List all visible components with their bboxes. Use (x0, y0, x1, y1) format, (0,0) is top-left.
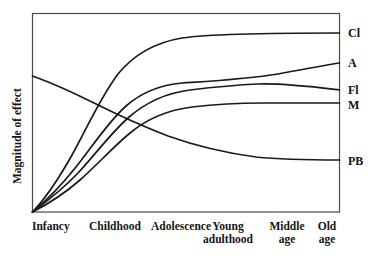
series-label-a: A (348, 56, 357, 70)
x-tick-middle: Middle (269, 220, 304, 232)
x-tick-infancy: Infancy (32, 220, 70, 233)
y-axis-title: Magnitude of effect (11, 88, 24, 184)
x-tick-childhood: Childhood (89, 220, 141, 232)
developmental-effects-line-chart: Cl A Fl M PB Magnitude of effect Infancy… (0, 0, 380, 257)
x-tick-old-age: age (319, 233, 336, 246)
series-label-pb: PB (348, 154, 363, 168)
x-tick-adulthood: adulthood (203, 233, 253, 245)
series-label-cl: Cl (348, 26, 361, 40)
x-tick-adolescence: Adolescence (151, 220, 211, 232)
chart-container: Cl A Fl M PB Magnitude of effect Infancy… (0, 0, 380, 257)
x-tick-middle-age: age (279, 233, 296, 246)
x-tick-young: Young (212, 220, 244, 233)
x-tick-old: Old (318, 220, 337, 232)
series-label-fl: Fl (348, 83, 359, 97)
series-label-m: M (348, 98, 359, 112)
